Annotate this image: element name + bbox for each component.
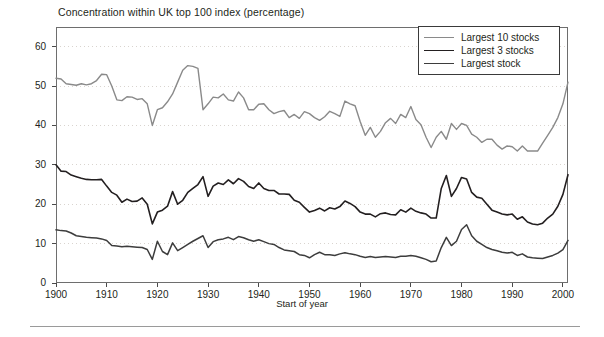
axis-ticks — [52, 47, 563, 287]
y-tick-label: 30 — [20, 159, 46, 170]
legend-swatch-largest-10-stocks — [424, 37, 454, 38]
y-tick-label: 60 — [20, 41, 46, 52]
y-tick-label: 10 — [20, 238, 46, 249]
legend-item-largest-3-stocks: Largest 3 stocks — [424, 44, 554, 57]
y-tick-label: 40 — [20, 119, 46, 130]
footer-divider — [30, 326, 580, 327]
chart-legend: Largest 10 stocks Largest 3 stocks Large… — [418, 26, 560, 75]
legend-swatch-largest-stock — [424, 63, 454, 64]
legend-item-largest-10-stocks: Largest 10 stocks — [424, 31, 554, 44]
y-tick-label: 0 — [20, 277, 46, 288]
legend-swatch-largest-3-stocks — [424, 50, 454, 51]
chart-figure: Concentration within UK top 100 index (p… — [0, 0, 604, 337]
legend-label-largest-stock: Largest stock — [461, 57, 520, 70]
x-axis-title: Start of year — [0, 298, 604, 309]
legend-item-largest-stock: Largest stock — [424, 57, 554, 70]
data-series-group — [56, 66, 568, 262]
y-tick-label: 20 — [20, 198, 46, 209]
y-tick-label: 50 — [20, 80, 46, 91]
gridlines — [56, 47, 568, 244]
legend-label-largest-10-stocks: Largest 10 stocks — [461, 31, 539, 44]
legend-label-largest-3-stocks: Largest 3 stocks — [461, 44, 534, 57]
